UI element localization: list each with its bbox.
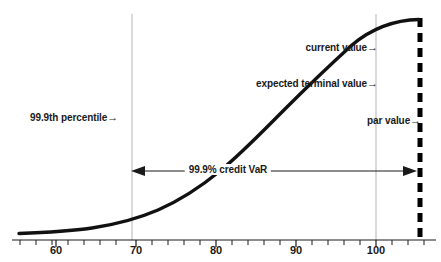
annotation-current-value: current value→ — [306, 41, 378, 53]
arrow-right-icon: → — [367, 77, 378, 89]
annotation-expected-terminal-value-text: expected terminal value — [256, 78, 367, 89]
credit-var-chart: 60 70 80 90 100 99.9th percentile→ curre… — [0, 0, 441, 262]
annotation-par-value: par value→ — [367, 114, 421, 126]
x-tick-label-70: 70 — [130, 244, 142, 256]
arrow-right-icon: → — [107, 111, 118, 123]
annotation-99-9th-percentile-text: 99.9th percentile — [30, 112, 107, 123]
annotation-99-9th-percentile: 99.9th percentile→ — [30, 111, 118, 123]
x-tick-label-90: 90 — [290, 244, 302, 256]
annotation-expected-terminal-value: expected terminal value→ — [256, 77, 378, 89]
annotation-credit-var: 99.9% credit VaR — [185, 164, 271, 175]
annotation-current-value-text: current value — [306, 42, 368, 53]
x-tick-label-60: 60 — [50, 244, 62, 256]
x-tick-label-100: 100 — [367, 244, 385, 256]
annotation-par-value-text: par value — [367, 115, 410, 126]
chart-canvas — [0, 0, 441, 262]
x-tick-label-80: 80 — [210, 244, 222, 256]
arrow-right-icon: → — [410, 114, 421, 126]
credit-var-span-arrow — [131, 166, 417, 176]
arrow-right-icon: → — [367, 41, 378, 53]
